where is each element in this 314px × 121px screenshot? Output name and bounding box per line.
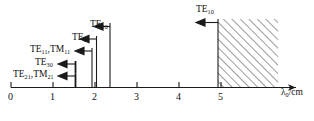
x-axis-symbol-sub: 0 [286, 91, 289, 98]
mode-name-te20: TE [90, 19, 102, 29]
tick-label-1: 1 [50, 92, 55, 102]
mode-sub-te20: 20 [102, 23, 108, 30]
tick-label-5: 5 [218, 92, 223, 102]
tick-label-0: 0 [8, 92, 13, 102]
mode-name-te11: TE [30, 44, 42, 54]
mode-sub-te10: 10 [208, 8, 214, 15]
mode-name-tm21: TM [33, 69, 47, 79]
mode-label-te20: TE20 [90, 20, 108, 30]
mode-name-te30: TE [35, 57, 47, 67]
mode-name-te01: TE [72, 32, 84, 42]
axis-ticks [11, 82, 221, 88]
x-axis-symbol: λ [281, 87, 286, 97]
mode-label-te21-tm21: TE21,TM21 [13, 70, 54, 80]
mode-name-te10: TE [196, 4, 208, 14]
mode-leaders [58, 19, 218, 80]
x-axis-unit: /cm [289, 87, 303, 97]
mode-label-te01: TE01 [72, 33, 90, 43]
x-axis-title: λ0/cm [281, 88, 303, 98]
mode-sub-te11: 11 [42, 48, 48, 55]
hatched-band [218, 19, 278, 87]
mode-sub-te21: 21 [25, 73, 31, 80]
mode-sub-te01: 01 [84, 36, 90, 43]
mode-name-te21: TE [13, 69, 25, 79]
tick-label-4: 4 [176, 92, 181, 102]
tick-label-3: 3 [134, 92, 139, 102]
tick-label-2: 2 [92, 92, 97, 102]
mode-name-tm11: TM [50, 44, 64, 54]
mode-sub-tm11: 11 [64, 48, 70, 55]
mode-label-te11-tm11: TE11,TM11 [30, 45, 70, 55]
mode-label-te30: TE30 [35, 58, 53, 68]
mode-sub-tm21: 21 [47, 73, 53, 80]
mode-cutoff-chart: TE21,TM21 TE30 TE11,TM11 TE01 TE20 TE10 … [0, 0, 314, 121]
mode-label-te10: TE10 [196, 5, 214, 15]
mode-sub-te30: 30 [47, 61, 53, 68]
